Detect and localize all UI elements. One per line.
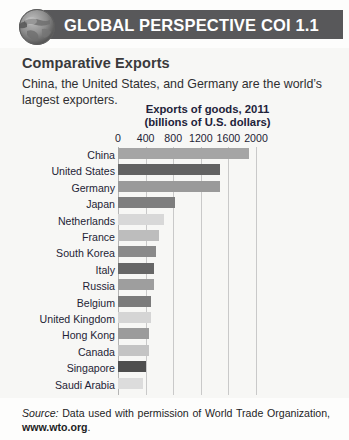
bar-label-hong-kong: Hong Kong: [62, 329, 115, 341]
bar-label-russia: Russia: [83, 280, 115, 292]
chart-row: France: [0, 229, 349, 245]
bar-saudi-arabia: [118, 378, 143, 389]
chart-row: China: [0, 147, 349, 163]
bar-south-korea: [118, 246, 156, 257]
bar-united-kingdom: [118, 312, 151, 323]
bar-belgium: [118, 296, 151, 307]
chart-title: Exports of goods, 2011: [110, 103, 305, 117]
chart-row: Hong Kong: [0, 327, 349, 343]
x-axis-tick-labels: 0400800120016002000: [0, 132, 349, 146]
page-title: GLOBAL PERSPECTIVE COI 1.1: [64, 15, 344, 35]
chart-bar-rows: ChinaUnited StatesGermanyJapanNetherland…: [0, 147, 349, 395]
chart-row: Russia: [0, 278, 349, 294]
bar-hong-kong: [118, 328, 149, 339]
bar-china: [118, 148, 249, 159]
chart-row: Japan: [0, 196, 349, 212]
x-tick-800: 800: [164, 132, 182, 144]
chart-row: Italy: [0, 262, 349, 278]
figure-subtitle: Comparative Exports: [22, 55, 170, 71]
chart-subtitle: (billions of U.S. dollars): [110, 116, 305, 130]
chart-row: Netherlands: [0, 213, 349, 229]
global-perspective-figure: GLOBAL PERSPECTIVE COI 1.1: [0, 0, 349, 440]
figure-body: Comparative Exports China, the United St…: [0, 48, 349, 398]
bar-france: [118, 230, 159, 241]
bar-label-united-kingdom: United Kingdom: [40, 313, 115, 325]
figure-header: GLOBAL PERSPECTIVE COI 1.1: [0, 0, 349, 48]
chart-row: Saudi Arabia: [0, 377, 349, 393]
source-note: Source: Data used with permission of Wor…: [22, 406, 330, 434]
x-tick-1600: 1600: [217, 132, 241, 144]
bar-label-belgium: Belgium: [77, 297, 115, 309]
bar-germany: [118, 181, 220, 192]
bar-label-china: China: [87, 149, 115, 161]
bar-label-france: France: [82, 231, 115, 243]
chart-row: United Kingdom: [0, 311, 349, 327]
bar-label-south-korea: South Korea: [56, 247, 115, 259]
chart-row: South Korea: [0, 245, 349, 261]
bar-label-italy: Italy: [96, 264, 115, 276]
bar-label-japan: Japan: [86, 198, 115, 210]
bar-label-singapore: Singapore: [67, 362, 115, 374]
bar-label-germany: Germany: [71, 182, 115, 194]
chart-row: Germany: [0, 180, 349, 196]
source-period: .: [88, 421, 91, 433]
bar-singapore: [118, 361, 146, 372]
chart-plot-area: ChinaUnited StatesGermanyJapanNetherland…: [0, 147, 349, 395]
bar-russia: [118, 279, 154, 290]
bar-italy: [118, 263, 154, 274]
bar-label-netherlands: Netherlands: [58, 215, 115, 227]
source-text: Data used with permission of World Trade…: [59, 407, 330, 419]
globe-icon: [15, 7, 59, 47]
exports-bar-chart: Exports of goods, 2011 (billions of U.S.…: [0, 103, 349, 398]
chart-row: Belgium: [0, 295, 349, 311]
bar-canada: [118, 345, 149, 356]
wto-link[interactable]: www.wto.org: [22, 421, 88, 433]
x-tick-0: 0: [115, 132, 121, 144]
chart-row: Canada: [0, 344, 349, 360]
x-tick-400: 400: [137, 132, 155, 144]
chart-row: United States: [0, 163, 349, 179]
bar-label-saudi-arabia: Saudi Arabia: [55, 379, 115, 391]
bar-japan: [118, 197, 175, 208]
bar-label-united-states: United States: [51, 165, 115, 177]
bar-netherlands: [118, 214, 164, 225]
chart-row: Singapore: [0, 360, 349, 376]
source-label: Source:: [22, 407, 59, 419]
bar-label-canada: Canada: [78, 346, 115, 358]
x-tick-2000: 2000: [244, 132, 268, 144]
x-tick-1200: 1200: [189, 132, 213, 144]
bar-united-states: [118, 164, 220, 175]
